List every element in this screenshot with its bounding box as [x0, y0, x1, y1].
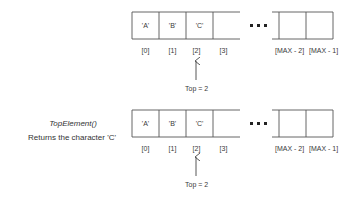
array-outlines — [0, 0, 355, 202]
cell-value: 'B' — [159, 120, 186, 128]
index-label: [3] — [210, 145, 237, 153]
index-label: [1] — [159, 145, 186, 153]
ellipsis-dots-top — [250, 24, 267, 27]
index-label: [MAX - 2] — [275, 145, 304, 153]
cell-value: 'A' — [132, 120, 159, 128]
index-label: [0] — [132, 145, 159, 153]
index-label: [2] — [183, 145, 210, 153]
index-label: [MAX - 2] — [275, 47, 304, 55]
cell-value: 'A' — [132, 22, 159, 30]
index-label: [0] — [132, 47, 159, 55]
index-label: [MAX - 1] — [309, 145, 338, 153]
cell-value: 'B' — [159, 22, 186, 30]
index-label: [1] — [159, 47, 186, 55]
cell-value: 'C' — [186, 120, 213, 128]
index-label: [MAX - 1] — [309, 47, 338, 55]
index-label: [2] — [183, 47, 210, 55]
cell-value: 'C' — [186, 22, 213, 30]
top-pointer-label: Top = 2 — [185, 181, 208, 189]
top-pointer-label: Top = 2 — [185, 85, 208, 93]
operation-title: TopElement() — [38, 119, 108, 128]
operation-description: Returns the character 'C' — [20, 133, 124, 142]
stack-diagram: 'A' 'B' 'C' [0] [1] [2] [3] [MAX - 2] [M… — [0, 0, 355, 202]
index-label: [3] — [210, 47, 237, 55]
ellipsis-dots-bottom — [250, 122, 267, 125]
